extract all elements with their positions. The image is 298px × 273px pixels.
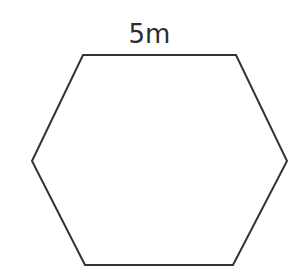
hexagon-shape: [32, 55, 287, 265]
hexagon-figure: 5m: [0, 0, 298, 273]
side-length-label: 5m: [0, 19, 298, 49]
